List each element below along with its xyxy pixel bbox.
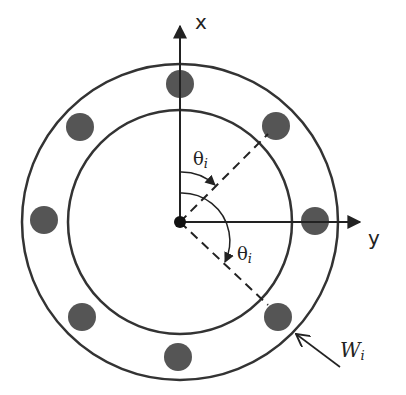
weight-arrow <box>296 334 340 367</box>
bolt-bottom-right <box>264 303 292 331</box>
bolt-left <box>30 206 58 234</box>
bolt-ring-diagram <box>0 0 406 395</box>
center-point <box>174 216 186 228</box>
x-axis-label: x <box>195 10 207 34</box>
bolt-top-left <box>66 113 94 141</box>
bolt-bottom-left <box>68 303 96 331</box>
weight-symbol: W <box>340 338 361 362</box>
dashed-line-lower <box>180 222 268 305</box>
theta-label-upper: θi <box>193 148 208 171</box>
theta-subscript: i <box>248 251 252 266</box>
theta-arc-1 <box>180 172 215 185</box>
weight-subscript: i <box>361 348 365 363</box>
weight-label: Wi <box>340 338 365 363</box>
y-axis-label: y <box>368 226 380 250</box>
theta-arc-2 <box>180 193 230 262</box>
theta-symbol: θ <box>193 148 204 169</box>
theta-subscript: i <box>204 156 208 171</box>
theta-label-lower: θi <box>237 243 252 266</box>
bolt-bottom <box>164 343 192 371</box>
theta-symbol: θ <box>237 243 248 264</box>
